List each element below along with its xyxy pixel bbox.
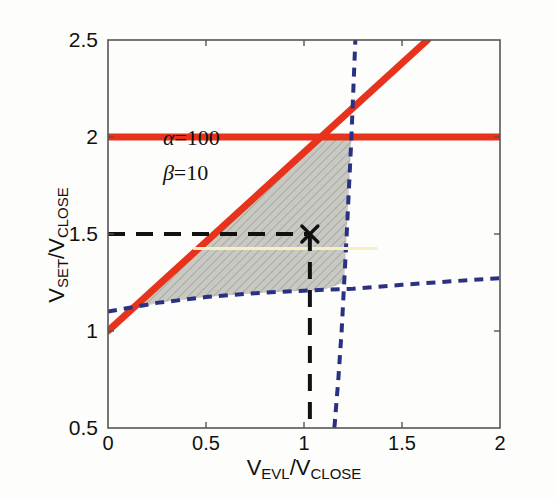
- figure-container: 2.5 2 1.5 1 0.5 0 0.5 1 1.5 2 VSET/VCLOS…: [0, 0, 557, 498]
- annotation-alpha: α=100: [163, 125, 220, 151]
- y-axis-title-sub2: CLOSE: [54, 187, 71, 238]
- alpha-symbol: α: [163, 125, 175, 150]
- y-ticklabel-2.5: 2.5: [69, 28, 98, 52]
- x-ticklabel-0: 0: [78, 432, 138, 455]
- x-ticklabel-2: 2: [470, 432, 530, 455]
- x-axis-title-sub2: CLOSE: [310, 465, 361, 482]
- y-axis-title-slash: /V: [44, 238, 69, 259]
- beta-value: =10: [174, 160, 208, 185]
- y-axis-title-v1: V: [44, 288, 69, 303]
- y-ticklabel-2: 2: [86, 125, 98, 149]
- x-axis-title: VEVL/VCLOSE: [108, 455, 500, 481]
- beta-symbol: β: [163, 160, 174, 185]
- alpha-value: =100: [174, 125, 219, 150]
- x-ticklabel-1: 1: [274, 432, 334, 455]
- y-axis-title-sub1: SET: [54, 259, 71, 288]
- y-ticklabel-1: 1: [86, 319, 98, 343]
- x-ticklabel-0.5: 0.5: [176, 432, 236, 455]
- series-layer: [108, 40, 500, 428]
- x-axis-title-v1: V: [247, 455, 262, 480]
- x-ticklabel-1.5: 1.5: [372, 432, 432, 455]
- y-ticklabel-1.5: 1.5: [69, 222, 98, 246]
- x-axis-title-slash: /V: [290, 455, 311, 480]
- x-axis-title-sub1: EVL: [261, 465, 289, 482]
- y-axis-title: VSET/VCLOSE: [44, 130, 70, 360]
- annotation-beta: β=10: [163, 160, 208, 186]
